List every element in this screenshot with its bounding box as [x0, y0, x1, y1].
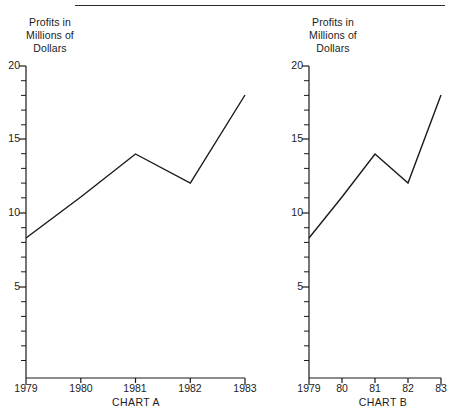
chart-b-y-minor-ticks — [304, 81, 309, 361]
chart-b-data-line — [309, 95, 441, 238]
chart-a-ytick-label-20: 20 — [0, 59, 20, 71]
top-horizontal-rule — [75, 5, 445, 6]
chart-a-xtick-label-1979: 1979 — [6, 382, 46, 394]
chart-b-caption: CHART B — [333, 396, 433, 408]
chart-a-xtick-label-1981: 1981 — [115, 382, 155, 394]
chart-a-data-line — [26, 95, 245, 238]
chart-b-ytick-label-15: 15 — [283, 132, 303, 144]
chart-b-svg — [301, 60, 445, 386]
chart-b-ytick-label-10: 10 — [283, 206, 303, 218]
chart-b-y-axis-title: Profits in Millions of Dollars — [285, 16, 381, 55]
chart-a-xtick-label-1982: 1982 — [170, 382, 210, 394]
chart-a-y-major-ticks — [19, 66, 26, 287]
chart-a-y-minor-ticks — [21, 81, 26, 361]
chart-a-svg — [18, 60, 253, 386]
chart-a-ytick-label-10: 10 — [0, 206, 20, 218]
chart-b-y-major-ticks — [302, 66, 309, 287]
chart-a-xtick-label-1980: 1980 — [61, 382, 101, 394]
chart-b-plot-area — [301, 60, 445, 386]
chart-a-ytick-label-15: 15 — [0, 132, 20, 144]
chart-a-ytick-label-5: 5 — [0, 280, 20, 292]
chart-a-xtick-label-1983: 1983 — [225, 382, 265, 394]
chart-b-ytick-label-5: 5 — [283, 280, 303, 292]
chart-b-xtick-label-83: 83 — [421, 382, 451, 394]
chart-a-caption: CHART A — [86, 396, 186, 408]
chart-b-ytick-label-20: 20 — [283, 59, 303, 71]
chart-a-plot-area — [18, 60, 253, 386]
chart-a-y-axis-title: Profits in Millions of Dollars — [2, 16, 98, 55]
